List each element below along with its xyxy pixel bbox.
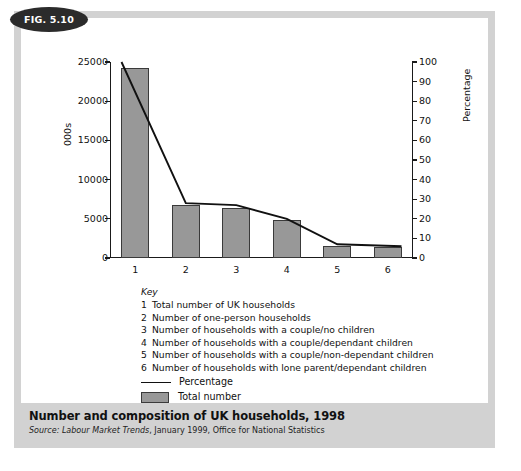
legend-entry-label: Percentage xyxy=(179,376,233,389)
figure-caption-title: Number and composition of UK households,… xyxy=(29,409,480,423)
key-item-label: Number of households with a couple/non-d… xyxy=(152,349,433,362)
y-axis-right-tick-label: 40 xyxy=(419,174,459,185)
y-axis-left-tick-label: 10000 xyxy=(48,174,108,185)
y-axis-right-tick-label: 80 xyxy=(419,95,459,106)
key-item: 4Number of households with a couple/depe… xyxy=(141,337,433,350)
chart-key: Key 1Total number of UK households2Numbe… xyxy=(141,286,433,405)
y-axis-left-tick-label: 0 xyxy=(48,252,108,263)
key-item: 5Number of households with a couple/non-… xyxy=(141,349,433,362)
y-axis-right-tick xyxy=(412,159,417,160)
y-axis-right-tick-label: 50 xyxy=(419,154,459,165)
key-item-number: 6 xyxy=(141,362,152,375)
key-item-label: Number of households with a couple/no ch… xyxy=(152,324,375,337)
y-axis-right-tick xyxy=(412,120,417,121)
key-item-number: 2 xyxy=(141,312,152,325)
key-legend-list: PercentageTotal number xyxy=(141,375,433,405)
key-item-number: 3 xyxy=(141,324,152,337)
key-title: Key xyxy=(141,286,433,299)
x-axis-tick-label: 2 xyxy=(166,264,206,275)
y-axis-right-tick xyxy=(412,179,417,180)
y-axis-title-right: Percentage xyxy=(461,69,472,122)
y-axis-right-tick xyxy=(412,199,417,200)
bar xyxy=(273,220,301,258)
key-item-number: 4 xyxy=(141,337,152,350)
y-axis-right-tick xyxy=(412,238,417,239)
key-item: 2Number of one-person households xyxy=(141,312,433,325)
legend-entry: Percentage xyxy=(141,375,433,390)
key-item: 1Total number of UK households xyxy=(141,299,433,312)
x-axis-tick-label: 6 xyxy=(368,264,408,275)
bar xyxy=(222,208,250,258)
key-item-number: 5 xyxy=(141,349,152,362)
bar xyxy=(172,205,200,258)
key-item-label: Number of households with a couple/depen… xyxy=(152,337,413,350)
key-item-list: 1Total number of UK households2Number of… xyxy=(141,299,433,375)
y-axis-right-tick-label: 100 xyxy=(419,56,459,67)
key-item-number: 1 xyxy=(141,299,152,312)
key-item: 3Number of households with a couple/no c… xyxy=(141,324,433,337)
x-axis-tick-label: 5 xyxy=(317,264,357,275)
y-axis-right-tick-label: 30 xyxy=(419,193,459,204)
y-axis-right-tick xyxy=(412,101,417,102)
y-axis-right-tick-label: 70 xyxy=(419,115,459,126)
y-axis-right-tick xyxy=(412,218,417,219)
source-label: Source: xyxy=(29,426,59,435)
y-axis-left-tick-label: 25000 xyxy=(48,56,108,67)
source-rest: , January 1999, Office for National Stat… xyxy=(149,426,324,435)
figure-number-badge: FIG. 5.10 xyxy=(10,7,88,32)
bar xyxy=(374,247,402,258)
source-publication: Labour Market Trends xyxy=(62,426,149,435)
figure-page: 000s Percentage 050001000015000200002500… xyxy=(0,0,521,471)
y-axis-right-tick xyxy=(412,140,417,141)
bar xyxy=(323,246,351,258)
y-axis-left-tick-label: 5000 xyxy=(48,213,108,224)
percentage-line-series xyxy=(110,62,413,258)
figure-plot-panel: 000s Percentage 050001000015000200002500… xyxy=(21,18,488,403)
x-axis-tick-label: 1 xyxy=(115,264,155,275)
figure-source-line: Source: Labour Market Trends, January 19… xyxy=(29,426,480,435)
y-axis-left-tick-label: 20000 xyxy=(48,95,108,106)
y-axis-right-tick-label: 20 xyxy=(419,213,459,224)
legend-line-swatch xyxy=(141,382,171,383)
key-item: 6Number of households with lone parent/d… xyxy=(141,362,433,375)
y-axis-right-tick-label: 90 xyxy=(419,76,459,87)
y-axis-right-tick-label: 0 xyxy=(419,252,459,263)
x-axis-tick-label: 4 xyxy=(267,264,307,275)
y-axis-right-tick-label: 60 xyxy=(419,134,459,145)
y-axis-right-tick xyxy=(412,257,417,258)
x-axis-line xyxy=(110,257,413,258)
plot-region: 0500010000150002000025000 01020304050607… xyxy=(110,62,413,258)
key-item-label: Number of households with lone parent/de… xyxy=(152,362,427,375)
legend-box-swatch xyxy=(141,392,169,403)
key-item-label: Number of one-person households xyxy=(152,312,311,325)
y-axis-left-tick-label: 15000 xyxy=(48,134,108,145)
figure-frame: 000s Percentage 050001000015000200002500… xyxy=(14,11,495,448)
key-item-label: Total number of UK households xyxy=(152,299,295,312)
y-axis-left-line xyxy=(110,62,111,258)
figure-caption-strip: Number and composition of UK households,… xyxy=(21,403,488,448)
y-axis-right-tick-label: 10 xyxy=(419,232,459,243)
y-axis-right-tick xyxy=(412,61,417,62)
bar xyxy=(121,68,149,258)
legend-entry-label: Total number xyxy=(178,391,241,404)
x-axis-tick-label: 3 xyxy=(216,264,256,275)
y-axis-right-tick xyxy=(412,81,417,82)
